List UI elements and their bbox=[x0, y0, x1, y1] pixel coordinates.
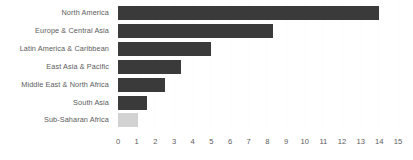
category-label: Europe & Central Asia bbox=[35, 24, 109, 38]
gridline bbox=[379, 2, 380, 128]
gridline bbox=[230, 2, 231, 128]
gridline bbox=[305, 2, 306, 128]
x-tick-label: 14 bbox=[369, 136, 389, 148]
x-tick-label: 13 bbox=[351, 136, 371, 148]
x-tick-label: 4 bbox=[183, 136, 203, 148]
category-label: Middle East & North Africa bbox=[21, 78, 109, 92]
gridline bbox=[323, 2, 324, 128]
x-tick-label: 2 bbox=[145, 136, 165, 148]
bar bbox=[118, 24, 273, 38]
x-tick-label: 1 bbox=[127, 136, 147, 148]
bar bbox=[118, 78, 165, 92]
gridline bbox=[193, 2, 194, 128]
x-tick-label: 9 bbox=[276, 136, 296, 148]
category-axis-labels: North AmericaEurope & Central AsiaLatin … bbox=[0, 0, 114, 130]
gridline bbox=[398, 2, 399, 128]
x-tick-label: 11 bbox=[313, 136, 333, 148]
gridline bbox=[211, 2, 212, 128]
x-tick-label: 7 bbox=[239, 136, 259, 148]
plot-area bbox=[118, 0, 398, 132]
gridline bbox=[267, 2, 268, 128]
gridline bbox=[342, 2, 343, 128]
category-label: North America bbox=[61, 6, 109, 20]
x-axis-tick-labels: 0123456789101112131415 bbox=[118, 136, 398, 152]
category-label: Latin America & Caribbean bbox=[20, 42, 109, 56]
x-tick-label: 8 bbox=[257, 136, 277, 148]
x-tick-label: 5 bbox=[201, 136, 221, 148]
x-tick-label: 10 bbox=[295, 136, 315, 148]
bar bbox=[118, 42, 211, 56]
category-label: Sub-Saharan Africa bbox=[44, 113, 109, 127]
gridline bbox=[286, 2, 287, 128]
bar-chart: North AmericaEurope & Central AsiaLatin … bbox=[0, 0, 413, 160]
x-tick-label: 15 bbox=[388, 136, 408, 148]
x-tick-label: 6 bbox=[220, 136, 240, 148]
bar bbox=[118, 113, 138, 127]
x-tick-label: 12 bbox=[332, 136, 352, 148]
category-label: South Asia bbox=[73, 96, 109, 110]
x-tick-label: 3 bbox=[164, 136, 184, 148]
gridline bbox=[361, 2, 362, 128]
bar bbox=[118, 6, 379, 20]
bar bbox=[118, 60, 181, 74]
category-label: East Asia & Pacific bbox=[46, 60, 109, 74]
gridline bbox=[249, 2, 250, 128]
bar bbox=[118, 96, 147, 110]
x-tick-label: 0 bbox=[108, 136, 128, 148]
